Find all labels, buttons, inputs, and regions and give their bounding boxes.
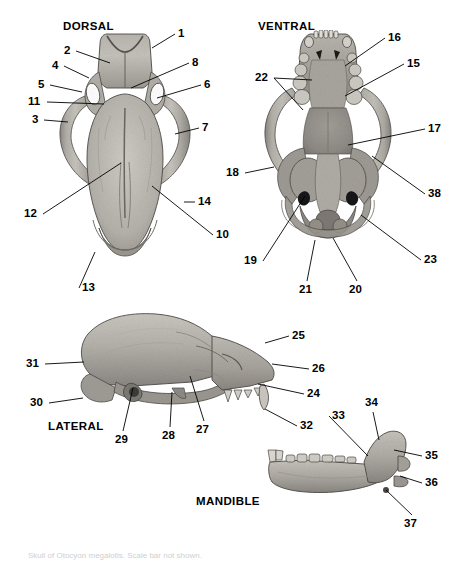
callout-label-6: 6 — [204, 79, 210, 91]
callout-label-24: 24 — [307, 388, 320, 400]
callout-label-26: 26 — [312, 363, 325, 375]
callout-label-1: 1 — [178, 28, 184, 40]
callout-label-20: 20 — [349, 284, 362, 296]
callout-label-21: 21 — [299, 284, 312, 296]
callout-label-11: 11 — [28, 96, 40, 108]
callout-label-25: 25 — [292, 330, 305, 342]
callout-label-17: 17 — [428, 123, 441, 135]
callout-label-37: 37 — [404, 518, 417, 530]
callout-label-4: 4 — [52, 60, 58, 72]
callout-label-35: 35 — [425, 450, 438, 462]
ventral-skull-image — [258, 30, 398, 262]
figure-caption: Skull of Otocyon megalotis. Scale bar no… — [28, 551, 358, 561]
callout-label-8: 8 — [192, 57, 198, 69]
callout-label-38: 38 — [428, 188, 441, 200]
callout-label-18: 18 — [226, 167, 239, 179]
callout-label-22: 22 — [255, 72, 268, 84]
callout-label-14: 14 — [198, 196, 211, 208]
callout-label-16: 16 — [388, 32, 401, 44]
callout-label-34: 34 — [365, 397, 378, 409]
callout-label-32: 32 — [300, 420, 313, 432]
callout-label-15: 15 — [407, 58, 420, 70]
view-title-dorsal: DORSAL — [63, 20, 114, 32]
lateral-skull-image — [72, 312, 277, 417]
dorsal-skull-image — [55, 32, 195, 260]
callout-label-28: 28 — [162, 430, 175, 442]
callout-label-36: 36 — [425, 477, 438, 489]
callout-label-3: 3 — [32, 114, 38, 126]
figure-plate: DORSAL VENTRAL LATERAL MANDIBLE 12451138… — [0, 0, 461, 561]
mandible-image — [264, 428, 412, 506]
callout-label-29: 29 — [115, 434, 128, 446]
callout-label-27: 27 — [196, 424, 209, 436]
callout-label-31: 31 — [26, 358, 39, 370]
callout-label-2: 2 — [64, 45, 70, 57]
callout-label-5: 5 — [38, 79, 44, 91]
callout-label-33: 33 — [332, 410, 345, 422]
callout-label-19: 19 — [244, 255, 257, 267]
view-title-lateral: LATERAL — [48, 420, 104, 432]
leader-line-26 — [272, 364, 309, 369]
callout-label-12: 12 — [24, 208, 37, 220]
view-title-ventral: VENTRAL — [258, 20, 315, 32]
callout-label-7: 7 — [202, 122, 208, 134]
callout-label-10: 10 — [216, 229, 229, 241]
callout-label-13: 13 — [82, 282, 95, 294]
view-title-mandible: MANDIBLE — [196, 495, 260, 507]
callout-label-30: 30 — [30, 397, 43, 409]
callout-label-23: 23 — [424, 254, 437, 266]
